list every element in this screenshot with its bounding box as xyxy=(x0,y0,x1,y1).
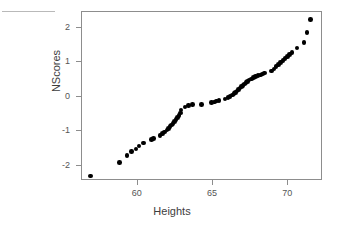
y-tick-mark xyxy=(76,165,81,166)
x-axis-title: Heights xyxy=(0,205,344,217)
y-tick-label: -2 xyxy=(46,160,70,170)
x-tick-mark xyxy=(137,180,138,185)
y-tick-mark xyxy=(76,61,81,62)
x-tick-label: 70 xyxy=(272,188,302,198)
data-point xyxy=(302,40,307,45)
data-point xyxy=(308,17,313,22)
y-axis-title: NScores xyxy=(50,41,62,101)
y-tick-mark xyxy=(76,96,81,97)
y-tick-mark xyxy=(76,27,81,28)
x-tick-label: 65 xyxy=(197,188,227,198)
x-tick-label: 60 xyxy=(122,188,152,198)
data-point xyxy=(262,71,267,76)
data-point xyxy=(151,136,156,141)
qq-plot-figure: 606570 -2-1012 Heights NScores xyxy=(0,0,344,229)
data-point xyxy=(305,30,310,35)
y-tick-mark xyxy=(76,130,81,131)
y-tick-label: 2 xyxy=(46,22,70,32)
data-point xyxy=(290,50,295,55)
y-tick-label: -1 xyxy=(46,125,70,135)
x-tick-mark xyxy=(212,180,213,185)
data-point xyxy=(117,160,122,165)
data-point xyxy=(141,141,146,146)
data-point xyxy=(190,102,195,107)
x-tick-mark xyxy=(287,180,288,185)
scatter-data-layer xyxy=(81,11,322,180)
data-point xyxy=(217,98,222,103)
data-point xyxy=(129,149,134,154)
data-point xyxy=(295,46,300,51)
data-point xyxy=(199,102,204,107)
scan-artifact-line xyxy=(2,11,55,12)
data-point xyxy=(88,174,93,179)
data-point xyxy=(125,153,130,158)
